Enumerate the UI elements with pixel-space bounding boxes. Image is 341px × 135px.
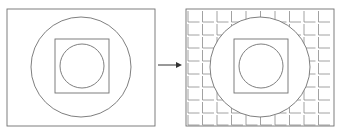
grid-cell (319, 76, 331, 87)
right-outer-circle (210, 17, 310, 117)
grid-cell (188, 50, 200, 61)
grid-cell (188, 24, 200, 35)
transform-arrow (158, 62, 182, 68)
left-square (55, 39, 109, 93)
grid-cell (290, 115, 302, 125)
grid-cell (319, 50, 331, 61)
grid-cell (217, 11, 229, 22)
grid-cell (188, 115, 200, 125)
left-outer-circle (31, 17, 131, 117)
grid-cell (304, 11, 316, 22)
grid-cell (275, 115, 287, 125)
grid-cell (203, 11, 215, 22)
left-panel (7, 9, 155, 126)
left-frame (7, 9, 155, 126)
grid-cell (203, 115, 215, 125)
right-panel (186, 9, 334, 126)
grid-cell (188, 11, 200, 22)
grid-cell (319, 89, 331, 100)
grid-cell (217, 115, 229, 125)
grid-cell (203, 37, 215, 48)
grid-cell (188, 102, 200, 113)
grid-cell (304, 115, 316, 125)
grid-cell (319, 24, 331, 35)
grid-cell (319, 102, 331, 113)
grid-cell (203, 24, 215, 35)
grid-cell (203, 102, 215, 113)
grid-cell (319, 37, 331, 48)
left-inner-circle (60, 44, 104, 88)
grid-cell (319, 115, 331, 125)
grid-cell (188, 89, 200, 100)
diagram-canvas (0, 0, 341, 135)
grid-cell (290, 11, 302, 22)
grid-cell (188, 76, 200, 87)
grid-cell (304, 102, 316, 113)
grid-cell (232, 115, 244, 125)
grid-cell (319, 63, 331, 74)
grid-cell (319, 11, 331, 22)
grid-cell (188, 63, 200, 74)
grid-cell (304, 89, 316, 100)
grid-cell (188, 37, 200, 48)
arrow-head-icon (176, 62, 182, 68)
grid-cell (203, 89, 215, 100)
grid-cell (304, 24, 316, 35)
